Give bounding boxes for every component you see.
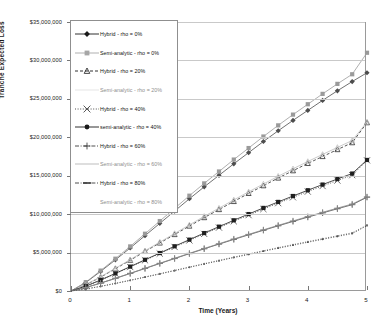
legend-item[interactable]: Hybrid - rho = 80% [74,174,174,193]
data-point-marker [231,236,237,242]
data-point-marker [263,250,265,252]
y-tick-label: $25,000,000 [0,95,62,101]
x-tick-label: 5 [354,296,378,303]
data-point-marker [99,269,103,273]
data-point-marker [276,128,281,133]
legend-marker-icon [74,139,100,153]
legend-item-label: Semi-analytic - rho = 80% [100,199,162,205]
data-point-marker [277,247,279,249]
legend-marker-icon [74,27,100,41]
data-point-marker [276,200,280,204]
legend-item-label: semi-analytic - rho = 40% [100,124,161,130]
legend-item[interactable]: Semi-analytic - rho = 20% [74,81,174,100]
data-point-marker [217,225,221,229]
legend-item[interactable]: Semi-analytic - rho = 0% [74,44,174,63]
x-tick-label: 4 [295,296,319,303]
data-point-marker [129,279,131,281]
x-tick-mark [130,286,131,290]
data-point-marker [159,273,161,275]
data-point-marker [260,227,266,233]
chart-legend: Hybrid - rho = 0%Semi-analytic - rho = 0… [70,20,178,213]
data-point-marker [84,31,90,37]
data-point-marker [144,276,146,278]
data-point-marker [349,201,355,207]
legend-item[interactable]: Hybrid - rho = 20% [74,62,174,81]
data-point-marker [350,79,355,84]
legend-item[interactable]: Hybrid - rho = 40% [74,99,174,118]
data-point-marker [84,105,91,112]
x-axis-title: Time (Years) [70,307,366,314]
y-tick-label: $10,000,000 [0,211,62,217]
chart-container: Tranche Expected Loss Time (Years) $0$5,… [0,0,378,320]
y-tick-mark [67,214,71,215]
legend-item-label: Semi-analytic - rho = 20% [100,87,162,93]
x-tick-mark [367,286,368,290]
data-point-marker [350,72,354,76]
legend-item[interactable]: semi-analytic - rho = 40% [74,118,174,137]
data-point-marker [366,224,368,226]
legend-marker-icon [74,157,100,171]
data-point-marker [321,182,325,186]
x-tick-label: 3 [236,296,260,303]
legend-item[interactable]: Semi-analytic - rho = 60% [74,155,174,174]
data-point-marker [85,288,87,290]
legend-item[interactable]: Hybrid - rho = 60% [74,137,174,156]
data-point-marker [217,169,221,173]
gridline [71,253,365,254]
legend-marker-icon [74,64,100,78]
x-tick-label: 2 [176,296,200,303]
data-point-marker [100,285,102,287]
data-point-marker [232,218,236,222]
data-point-marker [307,241,309,243]
data-point-marker [364,194,370,200]
data-point-marker [113,271,117,275]
y-tick-label: $5,000,000 [0,249,62,255]
data-point-marker [157,260,163,266]
data-point-marker [364,70,369,75]
data-point-marker [291,113,295,117]
y-tick-label: $15,000,000 [0,172,62,178]
data-point-marker [232,157,236,161]
data-point-marker [335,177,339,181]
legend-item-label: Semi-analytic - rho = 60% [100,161,162,167]
legend-item-label: Hybrid - rho = 60% [100,143,145,149]
data-point-marker [276,123,280,127]
y-tick-mark [67,291,71,292]
data-point-marker [335,88,340,93]
y-tick-label: $0 [0,288,62,294]
x-tick-mark [189,286,190,290]
y-tick-label: $35,000,000 [0,19,62,25]
data-point-marker [218,260,220,262]
data-point-marker [143,232,147,236]
data-point-marker [128,265,132,269]
data-point-marker [351,232,353,234]
data-point-marker [142,265,148,271]
legend-item-label: Semi-analytic - rho = 0% [100,50,159,56]
legend-item[interactable]: Semi-analytic - rho = 80% [74,192,174,211]
x-tick-mark [71,286,72,290]
data-point-marker [173,244,177,248]
data-point-marker [291,194,295,198]
data-point-marker [305,108,310,113]
data-point-marker [322,238,324,240]
data-point-marker [202,181,206,185]
data-point-marker [203,263,205,265]
data-point-marker [365,158,369,162]
legend-item-label: Hybrid - rho = 20% [100,68,145,74]
data-point-marker [85,125,90,130]
data-point-marker [247,146,251,150]
data-point-marker [128,244,132,248]
y-tick-mark [67,253,71,254]
y-tick-label: $30,000,000 [0,57,62,63]
data-point-marker [275,222,281,228]
data-point-marker [143,258,147,262]
legend-item-label: Hybrid - rho = 40% [100,106,145,112]
legend-marker-icon [74,176,100,190]
data-point-marker [202,231,206,235]
data-point-marker [187,238,191,242]
legend-item-label: Hybrid - rho = 0% [100,31,142,37]
data-point-marker [261,206,265,210]
data-point-marker [334,205,340,211]
data-point-marker [216,241,222,247]
legend-item[interactable]: Hybrid - rho = 0% [74,25,174,44]
